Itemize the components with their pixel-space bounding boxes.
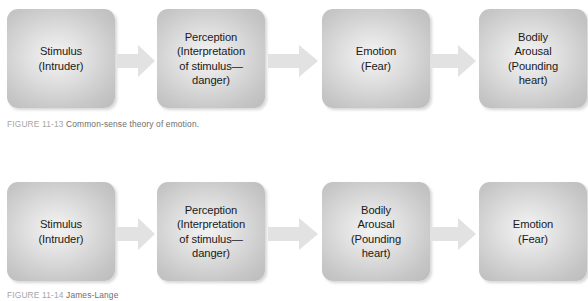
node-label-emotion: Emotion (Fear): [356, 44, 396, 72]
right-arrow-icon: [268, 217, 318, 251]
node-label-stimulus: Stimulus (Intruder): [38, 217, 83, 245]
figure-caption-tag: FIGURE 11-14: [7, 290, 64, 300]
right-arrow-icon: [117, 44, 155, 78]
figure-caption-text: Common-sense theory of emotion.: [66, 119, 199, 129]
node-label-stimulus: Stimulus (Intruder): [38, 44, 83, 72]
right-arrow-icon: [117, 217, 155, 251]
node-label-bodily-arousal: Bodily Arousal (Pounding heart): [351, 203, 401, 260]
node-box-emotion: Emotion (Fear): [322, 9, 430, 108]
figure-james-lange-theory: Stimulus (Intruder) Perception (Interpre…: [0, 173, 588, 285]
node-label-emotion: Emotion (Fear): [513, 217, 553, 245]
node-box-emotion: Emotion (Fear): [479, 182, 587, 281]
right-arrow-icon: [268, 44, 318, 78]
node-box-perception: Perception (Interpretation of stimulus— …: [157, 9, 265, 108]
right-arrow-icon: [430, 217, 476, 251]
figure-caption-text: James-Lange: [66, 290, 118, 300]
node-box-stimulus: Stimulus (Intruder): [7, 182, 115, 281]
figure-caption: FIGURE 11-13 Common-sense theory of emot…: [7, 119, 199, 131]
node-box-bodily-arousal: Bodily Arousal (Pounding heart): [479, 9, 587, 108]
node-box-perception: Perception (Interpretation of stimulus— …: [157, 182, 265, 281]
node-label-perception: Perception (Interpretation of stimulus— …: [177, 203, 245, 260]
figure-caption: FIGURE 11-14 James-Lange: [7, 290, 118, 301]
node-label-perception: Perception (Interpretation of stimulus— …: [177, 30, 245, 87]
node-box-bodily-arousal: Bodily Arousal (Pounding heart): [322, 182, 430, 281]
node-box-stimulus: Stimulus (Intruder): [7, 9, 115, 108]
node-label-bodily-arousal: Bodily Arousal (Pounding heart): [508, 30, 558, 87]
right-arrow-icon: [430, 44, 476, 78]
figure-common-sense-theory: Stimulus (Intruder) Perception (Interpre…: [0, 0, 588, 112]
figure-caption-tag: FIGURE 11-13: [7, 119, 64, 129]
